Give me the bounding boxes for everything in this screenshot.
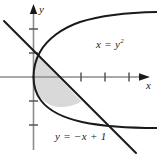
x-axis-label: x: [146, 80, 151, 91]
parabola-equation-label: x = y2: [96, 38, 124, 50]
y-axis-arrowhead: [30, 4, 37, 14]
parabola-y-term: y2: [115, 38, 124, 50]
graph-figure: y x x = y2 y = −x + 1: [0, 0, 157, 155]
line-equation-label: y = −x + 1: [55, 131, 107, 142]
y-axis-label: y: [39, 4, 44, 15]
